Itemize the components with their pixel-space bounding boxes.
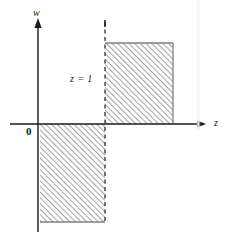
upper-right-region	[105, 43, 173, 124]
diagram-svg	[0, 0, 231, 240]
figure-canvas: w z 0 z = 1	[0, 0, 231, 240]
horizontal-axis-label: z	[214, 118, 218, 128]
vertical-axis-label: w	[33, 8, 40, 18]
lower-left-region	[40, 124, 105, 222]
origin-label: 0	[26, 126, 32, 137]
dashed-line-label: z = 1	[70, 74, 93, 84]
